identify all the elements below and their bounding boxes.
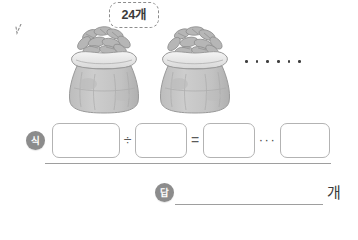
answer-rule [175, 204, 323, 205]
ellipsis-dot [277, 60, 280, 63]
equals-symbol: = [187, 133, 203, 147]
ellipsis-dot [266, 60, 269, 63]
remainder-symbol: ··· [255, 133, 280, 146]
answer-unit-label: 개 [327, 185, 341, 200]
more-sacks-ellipsis [245, 60, 301, 63]
sack-of-corn-2 [153, 22, 237, 114]
ellipsis-dot [288, 60, 291, 63]
speech-bubble-tail-icon [10, 24, 24, 36]
expression-box-quotient[interactable] [203, 123, 255, 158]
expression-box-remainder[interactable] [280, 123, 330, 158]
ellipsis-dot [245, 60, 248, 63]
sack-of-corn-1 [62, 22, 146, 114]
answer-badge: 답 [155, 183, 174, 202]
expression-box-divisor[interactable] [135, 123, 187, 158]
ellipsis-dot [256, 60, 259, 63]
ellipsis-dot [298, 60, 301, 63]
expression-rule [45, 163, 331, 164]
division-symbol: ÷ [120, 133, 135, 147]
expression-badge: 식 [26, 131, 45, 150]
expression-box-dividend[interactable] [52, 123, 120, 158]
